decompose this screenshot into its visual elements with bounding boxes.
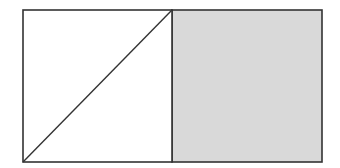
shaded-right-square bbox=[172, 10, 322, 162]
diagram-canvas bbox=[0, 0, 340, 168]
